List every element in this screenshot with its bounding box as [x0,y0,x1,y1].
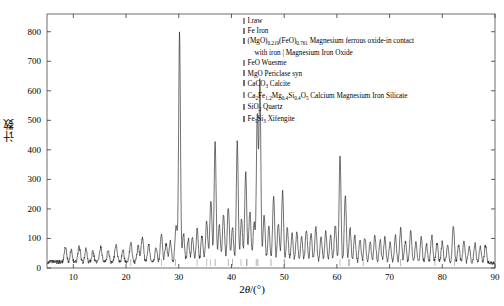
legend-marker-icon [243,38,245,44]
legend-item-label: FeO Wuesme [248,58,287,68]
y-tick-label: 0 [12,263,41,273]
legend-item-label: Fe Iron [248,26,269,36]
legend-marker-icon [243,18,245,24]
legend-marker-icon [243,70,245,76]
legend-item: CaCO3 Calcite [243,79,495,91]
y-tick-label: 400 [12,145,41,155]
legend-marker-icon [243,80,245,86]
legend-item: I.raw [243,16,495,26]
phase-legend: I.rawFe Iron(MgO)0.219(FeO)0.761 Magnesi… [243,16,495,126]
legend-item: Fe5Si3 Xifengite [243,114,495,126]
x-tick-label: 80 [438,272,447,282]
legend-marker-icon [243,92,245,98]
x-tick-label: 90 [491,272,500,282]
legend-item-label: CaCO3 Calcite [248,79,291,91]
legend-item: (MgO)0.219(FeO)0.761 Magnesium ferrous o… [243,36,495,58]
y-tick-label: 100 [12,233,41,243]
legend-item-label: MgO Periclase syn [248,69,303,79]
legend-item: Ca2Fe1.2Mg0.4Si0.4O5 Calcium Magnesium I… [243,91,495,103]
x-tick-label: 70 [385,272,394,282]
y-tick-label: 600 [12,86,41,96]
x-tick-label: 20 [122,272,131,282]
legend-item-label: Ca2Fe1.2Mg0.4Si0.4O5 Calcium Magnesium I… [248,91,408,103]
y-tick-label: 800 [12,27,41,37]
legend-item: Fe Iron [243,26,495,36]
legend-marker-icon [243,116,245,122]
legend-item-label: I.raw [248,16,263,26]
y-tick-label: 200 [12,204,41,214]
legend-marker-icon [243,28,245,34]
y-tick-label: 300 [12,174,41,184]
legend-item: MgO Periclase syn [243,69,495,79]
legend-marker-icon [243,60,245,66]
x-tick-label: 50 [280,272,289,282]
y-tick-label: 500 [12,115,41,125]
legend-item-label: SiO2 Quartz [248,102,283,114]
x-tick-label: 60 [332,272,341,282]
y-tick-label: 700 [12,56,41,66]
x-axis-title: 2θ/(°) [0,283,504,295]
x-tick-label: 10 [69,272,78,282]
xrd-chart-figure: 计数 2θ/(°) I.rawFe Iron(MgO)0.219(FeO)0.7… [0,0,504,306]
legend-item-label: Fe5Si3 Xifengite [248,114,295,126]
x-tick-label: 40 [227,272,236,282]
x-tick-label: 30 [174,272,183,282]
x-axis-title-suffix: /(°) [250,283,265,295]
legend-item: SiO2 Quartz [243,102,495,114]
legend-item: FeO Wuesme [243,58,495,68]
legend-marker-icon [243,104,245,110]
legend-item-label: (MgO)0.219(FeO)0.761 Magnesium ferrous o… [248,36,415,58]
